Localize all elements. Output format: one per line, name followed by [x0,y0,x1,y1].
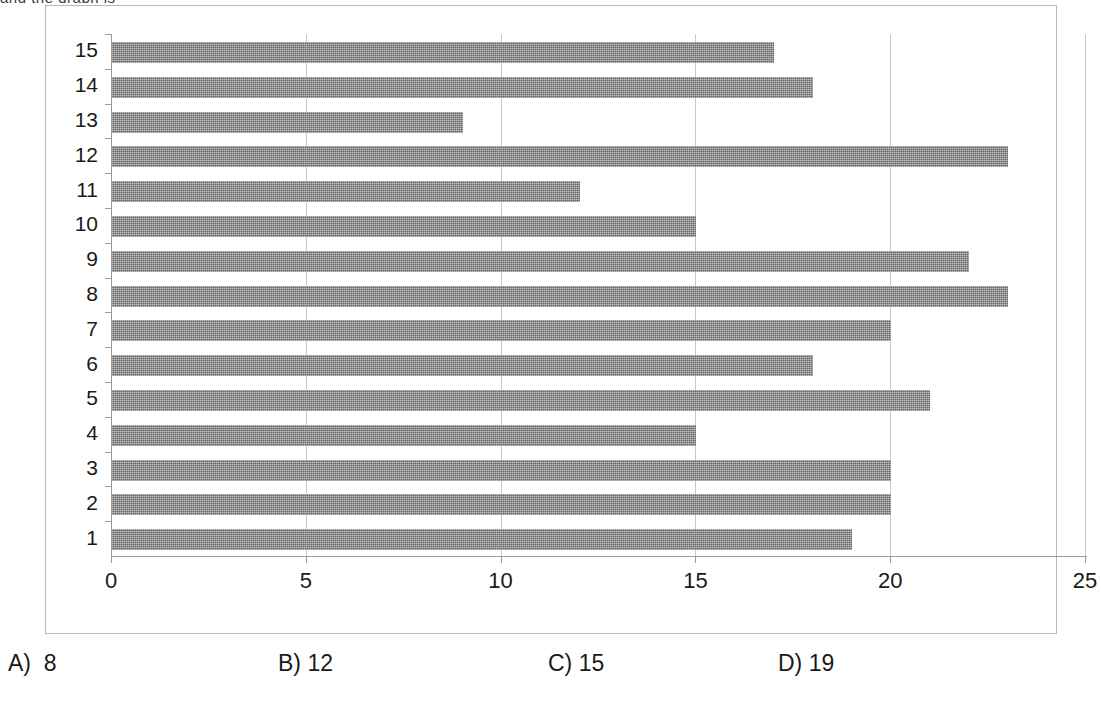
y-tick-label-11: 11 [46,178,98,202]
x-tick-label-20: 20 [860,568,920,594]
y-tick-label-7: 7 [46,317,98,341]
bar-4 [112,425,696,446]
y-tick-label-3: 3 [46,456,98,480]
y-tick-3 [105,452,111,453]
y-tick-5 [105,382,111,383]
bar-10 [112,216,696,237]
answer-option-b[interactable]: B) 12 [278,650,333,677]
y-tick-6 [105,347,111,348]
x-tick-label-0: 0 [81,568,141,594]
y-tick-10 [105,208,111,209]
bar-12 [112,146,1008,167]
bar-15 [112,42,774,63]
y-tick-label-15: 15 [46,38,98,62]
y-tick-7 [105,312,111,313]
x-tick-10 [501,557,502,563]
answer-option-d[interactable]: D) 19 [778,650,834,677]
y-tick-2 [105,486,111,487]
y-tick-label-8: 8 [46,282,98,306]
x-tick-label-15: 15 [665,568,725,594]
x-tick-5 [306,557,307,563]
x-tick-25 [1085,557,1086,563]
y-tick-label-14: 14 [46,73,98,97]
y-tick-label-13: 13 [46,108,98,132]
y-tick-15 [105,34,111,35]
bar-3 [112,460,891,481]
bar-13 [112,112,463,133]
y-tick-label-2: 2 [46,491,98,515]
y-tick-1 [105,521,111,522]
answer-option-a[interactable]: A) 8 [8,650,57,677]
x-tick-label-25: 25 [1055,568,1101,594]
y-tick-14 [105,69,111,70]
x-tick-0 [111,557,112,563]
y-tick-label-10: 10 [46,212,98,236]
x-tick-20 [890,557,891,563]
answer-choices: A) 8B) 12C) 15D) 19 [0,650,1076,705]
bar-9 [112,251,969,272]
y-tick-9 [105,243,111,244]
bar-7 [112,320,891,341]
gridline-x-25 [1085,34,1086,556]
y-tick-12 [105,138,111,139]
y-tick-label-9: 9 [46,247,98,271]
chart-frame: 0510152025 151413121110987654321 [45,5,1057,634]
y-tick-label-12: 12 [46,143,98,167]
y-tick-label-6: 6 [46,352,98,376]
cropped-header-text: and the graph is [0,0,1076,3]
y-tick-11 [105,173,111,174]
bar-11 [112,181,580,202]
bar-8 [112,286,1008,307]
y-tick-label-5: 5 [46,386,98,410]
plot-area [111,34,1086,556]
bar-2 [112,494,891,515]
bar-6 [112,355,813,376]
y-tick-label-1: 1 [46,526,98,550]
bar-5 [112,390,930,411]
bar-1 [112,529,852,550]
y-tick-label-4: 4 [46,421,98,445]
y-tick-4 [105,417,111,418]
x-tick-label-10: 10 [471,568,531,594]
x-tick-label-5: 5 [276,568,336,594]
y-tick-13 [105,104,111,105]
y-tick-8 [105,278,111,279]
x-axis-line [111,556,1087,557]
y-axis-line [111,34,112,557]
x-tick-15 [695,557,696,563]
bar-14 [112,77,813,98]
answer-option-c[interactable]: C) 15 [548,650,604,677]
